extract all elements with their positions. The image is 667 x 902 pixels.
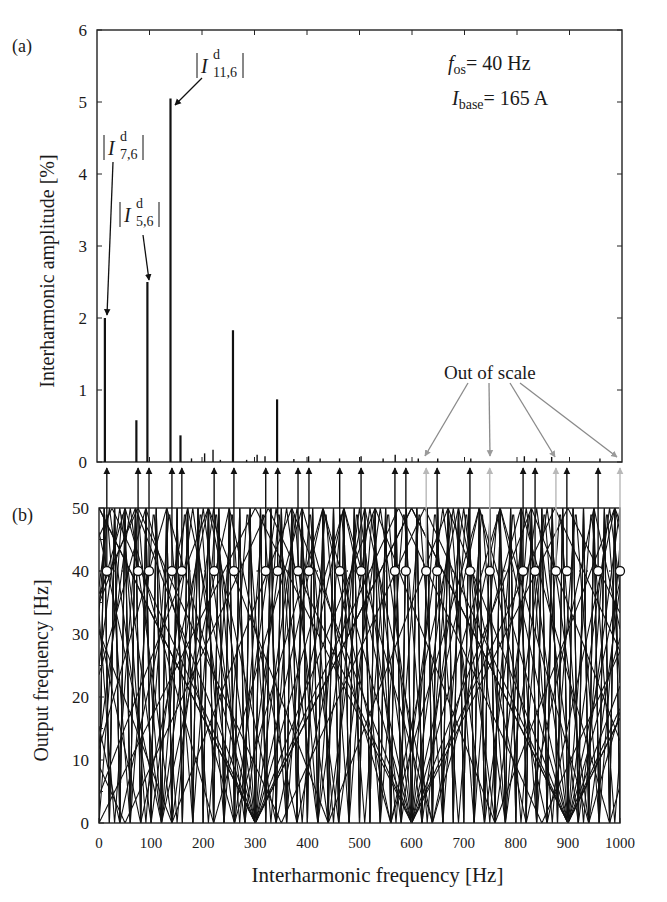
intersection-marker	[616, 567, 625, 576]
intersection-marker	[531, 567, 540, 576]
label-i7: Id7,6	[104, 129, 143, 162]
fos-value: = 40 Hz	[466, 52, 531, 74]
y-tick-label-a: 5	[79, 93, 88, 112]
out-of-scale-arrow	[520, 383, 617, 457]
intersection-marker	[167, 567, 176, 576]
x-axis-label-b: Interharmonic frequency [Hz]	[252, 863, 504, 887]
x-tick-label-b: 700	[452, 835, 475, 851]
x-tick-label-b: 1000	[605, 835, 635, 851]
intersection-marker	[273, 567, 282, 576]
ibase-value: = 165 A	[484, 87, 549, 109]
x-tick-label-b: 200	[192, 835, 215, 851]
intersection-marker	[102, 567, 111, 576]
out-of-scale-arrow	[425, 383, 468, 456]
y-tick-label-a: 0	[79, 453, 88, 472]
x-tick-label-b: 100	[140, 835, 163, 851]
current-symbol: I	[107, 137, 116, 159]
subscript: 5,6	[136, 214, 154, 229]
pointer-arrow-i7	[107, 162, 113, 315]
y-tick-label-a: 2	[79, 309, 88, 328]
intersection-marker	[145, 567, 154, 576]
intersection-marker	[594, 567, 603, 576]
intersection-marker	[551, 567, 560, 576]
x-tick-label-b: 300	[244, 835, 267, 851]
out-of-scale-label: Out of scale	[444, 362, 536, 383]
y-tick-label-a: 4	[79, 165, 88, 184]
y-tick-label-b: 20	[72, 688, 89, 707]
intersection-marker	[519, 567, 528, 576]
superscript: d	[136, 196, 143, 211]
superscript: d	[213, 47, 220, 62]
fos-annotation: fos= 40 Hz	[448, 52, 531, 77]
x-tick-label-b: 800	[505, 835, 528, 851]
label-i11: Id11,6	[197, 47, 243, 80]
ibase-annotation: Ibase= 165 A	[451, 87, 549, 112]
intersection-marker	[210, 567, 219, 576]
y-tick-label-b: 30	[72, 625, 89, 644]
intersection-marker	[422, 567, 431, 576]
subscript: 7,6	[120, 147, 138, 162]
y-axis-label-a: Interharmonic amplitude [%]	[36, 154, 59, 387]
panel-a: 0123456Interharmonic amplitude [%](a)Id1…	[12, 21, 622, 472]
panel-b: 0100200300400500600700800900100001020304…	[12, 468, 635, 887]
out-of-scale-arrow	[510, 383, 555, 457]
out-of-scale-arrow	[489, 383, 490, 456]
ibase-subscript: base	[459, 97, 484, 112]
intersection-marker	[294, 567, 303, 576]
intersection-marker	[304, 567, 313, 576]
figure: 0123456Interharmonic amplitude [%](a)Id1…	[0, 0, 667, 902]
subscript: 11,6	[213, 65, 237, 80]
pointer-arrow-i11	[175, 78, 202, 105]
panel-label-b: (b)	[12, 505, 33, 526]
harmonic-lines	[99, 508, 620, 823]
intersection-marker	[229, 567, 238, 576]
x-tick-label-b: 600	[400, 835, 423, 851]
x-tick-label-b: 0	[95, 835, 103, 851]
y-tick-label-a: 1	[79, 381, 88, 400]
intersection-marker	[401, 567, 410, 576]
y-tick-label-a: 3	[79, 237, 88, 256]
y-axis-label-b: Output frequency [Hz]	[30, 579, 53, 761]
x-tick-label-b: 500	[348, 835, 371, 851]
interharmonic-line	[568, 718, 620, 823]
intersection-marker	[390, 567, 399, 576]
intersection-marker	[485, 567, 494, 576]
y-tick-label-a: 6	[79, 21, 88, 40]
pointer-arrow-i5	[143, 235, 149, 280]
y-tick-label-b: 50	[72, 499, 89, 518]
fos-subscript: os	[454, 62, 466, 77]
panel-label-a: (a)	[12, 36, 32, 57]
intersection-marker	[465, 567, 474, 576]
superscript: d	[120, 129, 127, 144]
intersection-marker	[177, 567, 186, 576]
label-i5: Id5,6	[120, 196, 159, 229]
intersection-marker	[562, 567, 571, 576]
y-tick-label-b: 0	[81, 814, 90, 833]
intersection-marker	[335, 567, 344, 576]
y-tick-label-b: 10	[72, 751, 89, 770]
intersection-marker	[134, 567, 143, 576]
y-tick-label-b: 40	[72, 562, 89, 581]
current-symbol: I	[200, 55, 209, 77]
intersection-marker	[433, 567, 442, 576]
intersection-marker	[357, 567, 366, 576]
x-tick-label-b: 400	[296, 835, 319, 851]
intersection-marker	[261, 567, 270, 576]
x-tick-label-b: 900	[557, 835, 580, 851]
current-symbol: I	[123, 204, 132, 226]
